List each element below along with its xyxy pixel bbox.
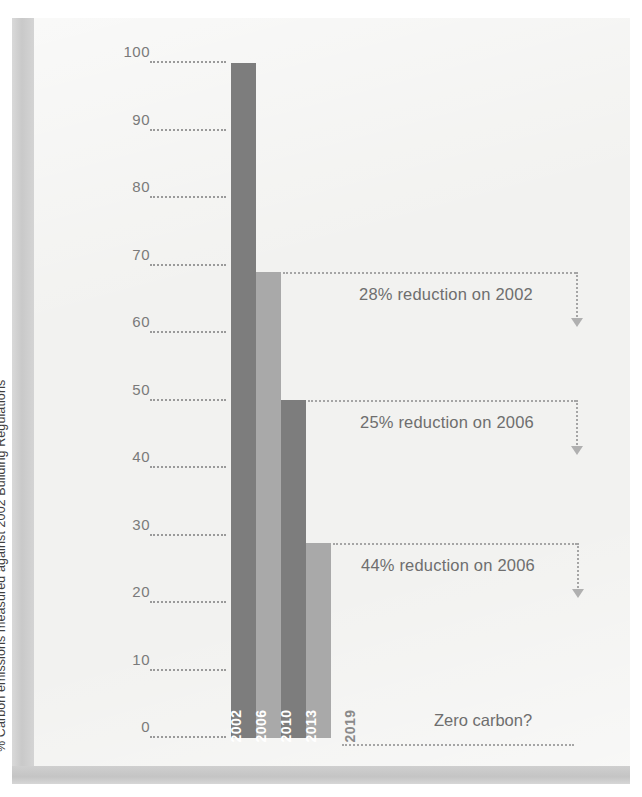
bar-2013[interactable]: 2013 xyxy=(306,543,331,738)
y-tick-label-30: 30 xyxy=(132,516,150,533)
y-gridline-30 xyxy=(150,534,226,536)
y-gridline-90 xyxy=(150,129,226,131)
chart-page: % Carbon emissions measured against 2002… xyxy=(0,0,642,797)
y-gridline-40 xyxy=(150,466,226,468)
y-gridline-20 xyxy=(150,601,226,603)
y-gridline-70 xyxy=(150,264,226,266)
annotation-arrow-down-icon-2 xyxy=(571,446,583,455)
bar-2002[interactable]: 2002 xyxy=(231,63,256,738)
y-gridline-60 xyxy=(150,331,226,333)
plot-area: 100 90 80 70 60 50 40 30 xyxy=(0,0,642,797)
bar-2019[interactable]: 2019 xyxy=(345,736,370,738)
y-tick-label-70: 70 xyxy=(132,246,150,263)
y-gridline-10 xyxy=(150,669,226,671)
annotation-leader-line-2 xyxy=(308,400,576,402)
y-tick-label-40: 40 xyxy=(132,448,150,465)
y-gridline-0 xyxy=(150,736,226,738)
bar-label-2019: 2019 xyxy=(342,709,358,742)
annotation-leader-line-3 xyxy=(333,543,577,545)
y-tick-label-0: 0 xyxy=(141,718,150,735)
y-gridline-100 xyxy=(150,61,226,63)
bar-2010[interactable]: 2010 xyxy=(281,400,306,738)
y-tick-label-100: 100 xyxy=(123,43,150,60)
y-gridline-80 xyxy=(150,196,226,198)
annotation-text-1: 28% reduction on 2002 xyxy=(359,285,533,304)
annotation-drop-line-3 xyxy=(577,543,579,591)
annotation-leader-line-1 xyxy=(283,272,576,274)
bar-2006[interactable]: 2006 xyxy=(256,272,281,738)
annotation-28-reduction: 28% reduction on 2002 xyxy=(283,272,578,342)
bar-label-2010: 2010 xyxy=(278,709,294,742)
annotation-25-reduction: 25% reduction on 2006 xyxy=(308,400,580,470)
annotation-drop-line-2 xyxy=(576,400,578,448)
bar-label-2002: 2002 xyxy=(228,709,244,742)
annotation-arrow-down-icon-3 xyxy=(572,589,584,598)
bar-label-2013: 2013 xyxy=(303,709,319,742)
y-tick-label-60: 60 xyxy=(132,313,150,330)
annotation-arrow-down-icon-1 xyxy=(571,318,583,327)
annotation-text-zero-carbon: Zero carbon? xyxy=(434,711,532,730)
y-tick-label-50: 50 xyxy=(132,381,150,398)
y-tick-label-20: 20 xyxy=(132,583,150,600)
y-gridline-50 xyxy=(150,399,226,401)
annotation-drop-line-1 xyxy=(576,272,578,320)
zero-carbon-baseline xyxy=(342,744,574,746)
annotation-text-2: 25% reduction on 2006 xyxy=(360,413,534,432)
annotation-text-3: 44% reduction on 2006 xyxy=(361,556,535,575)
annotation-44-reduction: 44% reduction on 2006 xyxy=(333,543,581,613)
y-tick-label-90: 90 xyxy=(132,111,150,128)
y-tick-label-80: 80 xyxy=(132,178,150,195)
bar-label-2006: 2006 xyxy=(253,709,269,742)
y-tick-label-10: 10 xyxy=(132,651,150,668)
